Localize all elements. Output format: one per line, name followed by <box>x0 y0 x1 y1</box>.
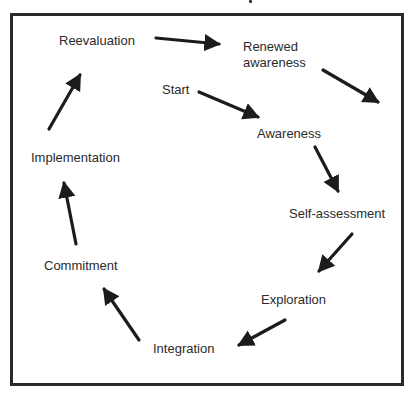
diagram-frame <box>10 13 404 386</box>
node-awareness: Awareness <box>257 126 321 142</box>
node-renewed-awareness-line-1: Renewed <box>243 39 306 55</box>
node-renewed-awareness: Renewed awareness <box>243 39 306 71</box>
cropped-title-fragment <box>249 0 252 3</box>
node-start: Start <box>162 82 189 98</box>
node-integration: Integration <box>153 341 214 357</box>
node-implementation: Implementation <box>31 150 120 166</box>
node-exploration: Exploration <box>261 292 326 308</box>
node-reevaluation: Reevaluation <box>59 33 135 49</box>
node-renewed-awareness-line-2: awareness <box>243 55 306 71</box>
node-self-assessment: Self-assessment <box>289 206 385 222</box>
node-commitment: Commitment <box>44 258 118 274</box>
